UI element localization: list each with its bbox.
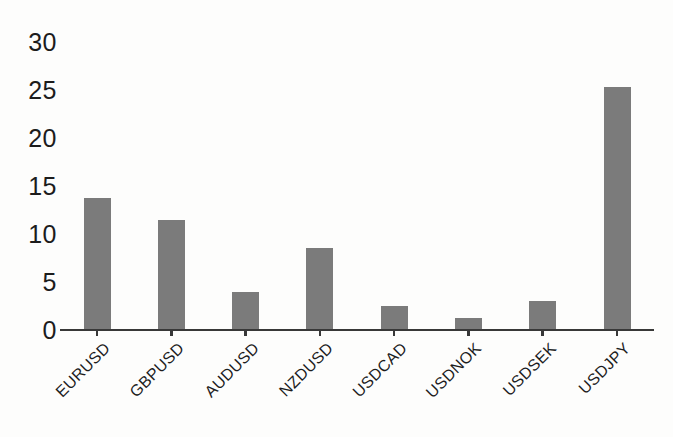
bar-usdsek (529, 301, 556, 331)
bar-eurusd (84, 198, 111, 331)
x-axis-line (60, 329, 654, 332)
y-tick-label-0: 0 (5, 318, 57, 343)
x-tick-usdjpy (616, 331, 619, 336)
bar-nzdusd (306, 248, 333, 331)
x-tick-gbpusd (170, 331, 173, 336)
x-tick-eurusd (96, 331, 99, 336)
y-tick-label-15: 15 (5, 174, 57, 199)
bar-audusd (232, 292, 259, 331)
x-tick-audusd (244, 331, 247, 336)
x-tick-nzdusd (319, 331, 322, 336)
x-tick-usdnok (467, 331, 470, 336)
y-tick-label-10: 10 (5, 222, 57, 247)
bar-usdjpy (604, 87, 631, 331)
x-tick-usdcad (393, 331, 396, 336)
bar-gbpusd (158, 220, 185, 331)
y-tick-label-5: 5 (5, 270, 57, 295)
x-tick-usdsek (541, 331, 544, 336)
bar-usdcad (381, 306, 408, 331)
y-tick-label-30: 30 (5, 30, 57, 55)
y-tick-label-20: 20 (5, 126, 57, 151)
currency-volatility-bar-chart: 051015202530 EURUSDGBPUSDAUDUSDNZDUSDUSD… (0, 0, 673, 437)
y-tick-label-25: 25 (5, 78, 57, 103)
